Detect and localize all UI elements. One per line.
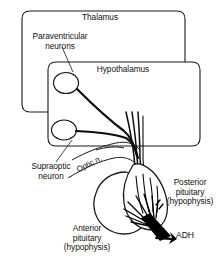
paraventricular-neuron-soma xyxy=(54,73,79,94)
label-hypothalamus: Hypothalamus xyxy=(44,65,202,75)
supraoptic-neuron-soma xyxy=(52,120,77,140)
anatomy-diagram: Thalamus Hypothalamus Paraventricular ne… xyxy=(0,0,222,261)
label-adh: ADH xyxy=(176,231,206,241)
label-posterior-pituitary: Posterior pituitary (hypophysis) xyxy=(160,178,220,207)
label-anterior-pituitary: Anterior pituitary (hypophysis) xyxy=(48,224,126,253)
label-thalamus: Thalamus xyxy=(0,13,200,23)
label-paraventricular-neurons: Paraventricular neurons xyxy=(12,32,108,51)
